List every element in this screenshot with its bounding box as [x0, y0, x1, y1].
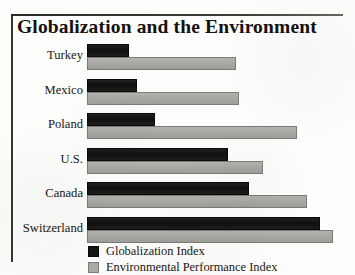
bar-track: [87, 44, 349, 74]
bar-environmental-performance-index: [87, 126, 297, 139]
bar-track: [87, 217, 349, 247]
chart-figure: Globalization and the Environment Turkey…: [0, 0, 355, 275]
bar-environmental-performance-index: [87, 195, 307, 208]
category-label: Canada: [0, 186, 83, 201]
chart-row: Turkey: [0, 44, 355, 74]
bar-track: [87, 182, 349, 212]
chart-legend: Globalization IndexEnvironmental Perform…: [88, 244, 348, 275]
bar-environmental-performance-index: [87, 57, 236, 70]
chart-row: Mexico: [0, 79, 355, 109]
legend-label: Globalization Index: [106, 244, 205, 259]
category-label: Poland: [0, 117, 83, 132]
category-label: U.S.: [0, 152, 83, 167]
chart-row: Switzerland: [0, 217, 355, 247]
chart-row: Poland: [0, 113, 355, 143]
bar-globalization-index: [87, 113, 155, 126]
category-label: Switzerland: [0, 221, 83, 236]
bar-globalization-index: [87, 148, 228, 161]
legend-label: Environmental Performance Index: [106, 260, 277, 275]
bar-environmental-performance-index: [87, 230, 333, 243]
bar-globalization-index: [87, 217, 320, 230]
bar-globalization-index: [87, 182, 249, 195]
category-label: Mexico: [0, 83, 83, 98]
gray-square-swatch: [88, 262, 99, 273]
bar-track: [87, 148, 349, 178]
bar-environmental-performance-index: [87, 92, 239, 105]
legend-entry: Globalization Index: [88, 244, 348, 259]
bar-globalization-index: [87, 44, 129, 57]
bar-globalization-index: [87, 79, 137, 92]
legend-entry: Environmental Performance Index: [88, 260, 348, 275]
chart-row: Canada: [0, 182, 355, 212]
category-label: Turkey: [0, 48, 83, 63]
bar-environmental-performance-index: [87, 161, 263, 174]
chart-title: Globalization and the Environment: [17, 16, 317, 38]
chart-row: U.S.: [0, 148, 355, 178]
bar-track: [87, 79, 349, 109]
dark-square-swatch: [88, 246, 99, 257]
plot-area: TurkeyMexicoPolandU.S.CanadaSwitzerland: [0, 42, 355, 254]
bar-track: [87, 113, 349, 143]
